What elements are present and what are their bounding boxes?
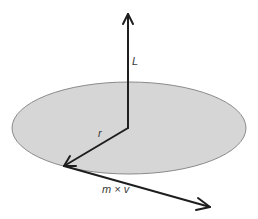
label-r: r bbox=[98, 128, 102, 139]
label-m-times-v: m × v bbox=[102, 184, 129, 195]
diagram-canvas: L r m × v bbox=[0, 0, 258, 219]
label-L: L bbox=[132, 56, 138, 67]
